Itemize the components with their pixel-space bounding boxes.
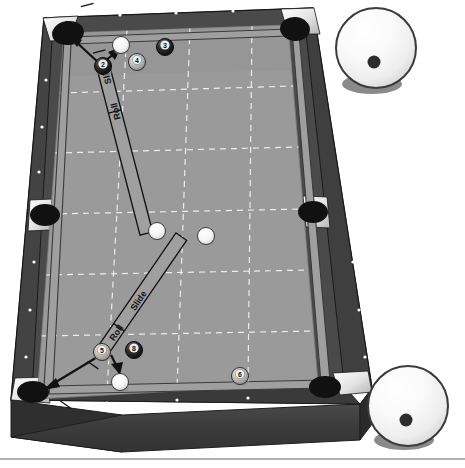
pool-diagram-svg: Roll Slide Roll Slide [0,0,465,468]
ball-2-label: 2 [101,61,105,68]
figure-root: Roll Slide Roll Slide [0,0,465,468]
pocket-bottom-right [309,376,341,398]
pocket-side-left [30,204,60,226]
ball-5-label: 5 [100,347,104,354]
cue-ball-inset-top-right [336,8,416,94]
billiard-table [11,8,372,452]
ball-8-label: 8 [132,345,136,352]
cue-ball-inset-top-right-contact-dot [368,56,381,69]
cue-ball-inset-bottom-right [368,366,448,450]
ball-4-label: 4 [135,57,139,64]
ball-3-label: 3 [163,42,167,49]
ball-6-label: 6 [238,371,242,378]
table-cloth [37,25,330,399]
pocket-side-right [298,201,328,223]
cue-ball-inset-bottom-right-sphere [368,366,448,446]
cue-ball-inset-bottom-right-contact-dot [400,414,413,427]
cue-ball-inset-top-right-sphere [336,8,416,88]
pocket-bottom-left [17,381,49,403]
